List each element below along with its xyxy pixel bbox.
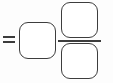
fraction-numerator-empty-box[interactable]: [61, 2, 98, 38]
left-operand-empty-box[interactable]: [19, 22, 56, 59]
fraction-denominator-empty-box[interactable]: [61, 43, 98, 79]
fraction-bar: [58, 40, 101, 42]
fraction-group: [58, 0, 102, 83]
equals-sign-upper-bar: [3, 36, 15, 38]
equals-sign-icon: [3, 35, 15, 45]
equation-diagram-canvas: [0, 0, 113, 83]
equals-sign-lower-bar: [3, 41, 15, 43]
